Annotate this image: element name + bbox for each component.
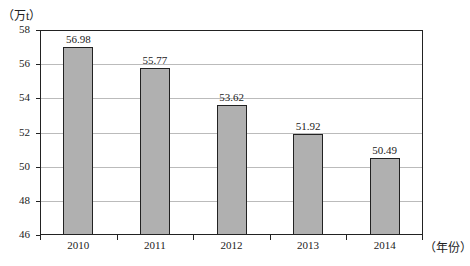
y-tick-label: 56 — [2, 57, 30, 69]
x-tick-mark — [346, 235, 347, 240]
y-tick-label: 54 — [2, 91, 30, 103]
x-tick-label: 2013 — [283, 239, 333, 251]
bar-2010 — [63, 47, 93, 235]
x-tick-label: 2011 — [130, 239, 180, 251]
x-tick-label: 2010 — [53, 239, 103, 251]
x-tick-mark — [117, 235, 118, 240]
bar-2013 — [293, 134, 323, 235]
y-tick-label: 46 — [2, 228, 30, 240]
bar-value-label: 50.49 — [360, 144, 410, 156]
bar-value-label: 55.77 — [130, 54, 180, 66]
x-tick-label: 2014 — [360, 239, 410, 251]
x-tick-mark — [270, 235, 271, 240]
x-tick-mark — [422, 235, 423, 240]
bar-value-label: 51.92 — [283, 120, 333, 132]
y-axis-unit-label: （万t） — [2, 6, 41, 24]
bar-2014 — [370, 158, 400, 235]
bar-2011 — [140, 68, 170, 235]
bar-value-label: 53.62 — [207, 91, 257, 103]
x-tick-label: 2012 — [207, 239, 257, 251]
x-tick-mark — [193, 235, 194, 240]
bar-value-label: 56.98 — [53, 33, 103, 45]
y-tick-label: 50 — [2, 160, 30, 172]
x-axis-unit-label: （年份） — [424, 238, 470, 256]
y-tick-label: 48 — [2, 194, 30, 206]
y-tick-label: 52 — [2, 126, 30, 138]
y-tick-label: 58 — [2, 23, 30, 35]
bar-2012 — [217, 105, 247, 235]
x-tick-mark — [40, 235, 41, 240]
